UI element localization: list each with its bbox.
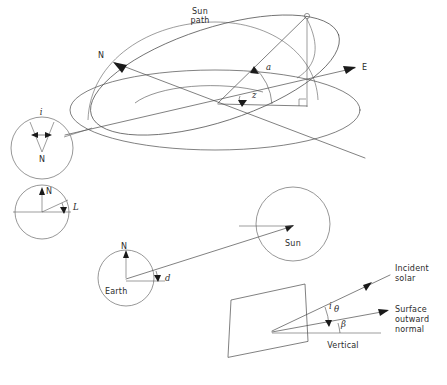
hour-angle-arrowhead-right xyxy=(45,132,52,138)
inset-connector-line xyxy=(64,128,92,137)
right-angle-marker xyxy=(299,99,306,106)
inset-hour-angle-group: i N xyxy=(11,107,73,179)
hour-angle-circle xyxy=(11,117,73,179)
sun-path-descending-segment xyxy=(297,19,315,78)
hour-angle-label: i xyxy=(40,107,43,117)
north-axis-arrowhead xyxy=(113,62,127,73)
surface-normal-arrowhead xyxy=(378,309,389,316)
incidence-angle-label: i xyxy=(329,301,332,311)
incident-solar-arrowhead xyxy=(363,282,372,291)
earth-label: Earth xyxy=(105,287,127,296)
altitude-angle-label: a xyxy=(266,62,271,72)
sun-path-label-line2: path xyxy=(191,16,210,25)
earth-north-label: N xyxy=(121,242,127,251)
sun-label: Sun xyxy=(285,239,301,248)
azimuth-angle-arrowhead xyxy=(238,100,247,107)
north-axis-label: N xyxy=(98,51,104,60)
earth-to-sun-line xyxy=(126,226,293,279)
surface-panel-group: i θ β Incident solar Surface outward nor… xyxy=(228,264,429,357)
east-axis-label: E xyxy=(362,63,367,72)
latitude-angle-arrowhead xyxy=(60,207,67,214)
incident-solar-label-line1: Incident xyxy=(395,264,429,273)
incident-solar-label-line2: solar xyxy=(395,274,416,283)
tilt-angle-label: β xyxy=(340,319,346,329)
latitude-north-arrowhead xyxy=(39,187,45,195)
hour-angle-wedge-right xyxy=(42,122,54,152)
sun-path-label-line1: Sun xyxy=(192,7,208,16)
observer-to-ground-projection-line xyxy=(218,104,307,106)
azimuth-angle-label: z xyxy=(251,90,257,100)
hour-angle-pole-label: N xyxy=(39,155,45,164)
east-axis-arrowhead xyxy=(343,66,356,74)
sun-circle xyxy=(256,187,330,261)
surface-normal-label-line2: outward xyxy=(395,315,429,324)
earth-north-arrowhead xyxy=(123,250,129,258)
east-axis-line xyxy=(65,68,355,135)
horizon-ellipse xyxy=(70,70,360,150)
incidence-angle-arrowhead xyxy=(325,320,332,327)
surface-normal-label-line1: Surface xyxy=(395,305,427,314)
earth-sun-group: N Earth d Sun xyxy=(98,187,330,306)
tilted-surface-panel xyxy=(228,284,308,357)
theta-angle-label: θ xyxy=(334,304,339,314)
surface-normal-label-line3: normal xyxy=(395,325,424,334)
tilt-angle-arc xyxy=(338,323,340,333)
latitude-angle-label: L xyxy=(72,202,79,212)
inset-latitude-group: N L xyxy=(13,185,79,239)
celestial-sphere-group: Sun path N E a z xyxy=(64,0,367,160)
solar-geometry-figure: Sun path N E a z i N xyxy=(0,0,447,385)
vertical-label: Vertical xyxy=(327,341,359,350)
latitude-north-label: N xyxy=(46,187,52,196)
solar-diagram-canvas: Sun path N E a z i N xyxy=(0,0,447,385)
north-axis-line xyxy=(115,63,365,158)
declination-angle-label: d xyxy=(165,273,171,283)
